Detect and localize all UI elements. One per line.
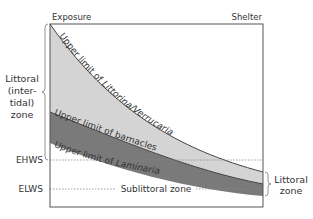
ehws-label: EHWS (16, 155, 43, 165)
elws-label: ELWS (19, 184, 44, 194)
shelter-label: Shelter (232, 12, 263, 22)
left-littoral-bracket (42, 24, 48, 160)
svg-text:tidal): tidal) (10, 97, 35, 108)
svg-text:Littoral: Littoral (274, 174, 308, 185)
exposure-label: Exposure (52, 12, 91, 22)
svg-text:(inter-: (inter- (8, 85, 37, 96)
littoral-zonation-diagram: Upper limit of Littorina/Verrucaria Uppe… (0, 0, 313, 219)
svg-text:zone: zone (280, 185, 303, 196)
svg-text:Littoral: Littoral (5, 73, 39, 84)
left-zone-label: Littoral (inter- tidal) zone (5, 73, 39, 120)
svg-text:zone: zone (11, 109, 34, 120)
right-littoral-bracket (265, 172, 271, 196)
sublittoral-zone-label: Sublittoral zone (121, 184, 192, 194)
right-zone-label: Littoral zone (274, 174, 308, 196)
